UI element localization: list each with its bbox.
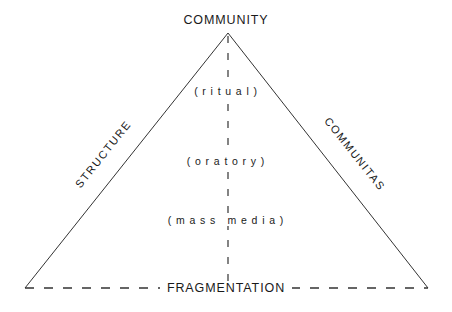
base-vertex-label-text: FRAGMENTATION (160, 281, 292, 295)
axis-label-ritual: ( r i t u a l ) (0, 85, 452, 97)
diagram-canvas: COMMUNITY FRAGMENTATION ( r i t u a l ) … (0, 0, 452, 312)
axis-label-mass-media: ( m a s s m e d i a ) (0, 214, 452, 226)
axis-label-mass-media-text: ( m a s s m e d i a ) (163, 214, 289, 226)
apex-vertex-label: COMMUNITY (0, 13, 452, 27)
axis-label-ritual-text: ( r i t u a l ) (189, 85, 263, 97)
base-vertex-label: FRAGMENTATION (0, 281, 452, 295)
axis-label-oratory: ( o r a t o r y ) (0, 155, 452, 167)
axis-label-oratory-text: ( o r a t o r y ) (182, 155, 270, 167)
